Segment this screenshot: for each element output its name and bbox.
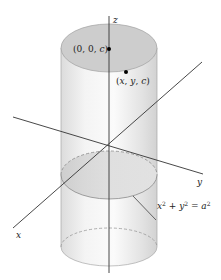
x-axis-label: x bbox=[16, 230, 21, 240]
z-axis-label: z bbox=[112, 15, 118, 25]
equation-label: x2 + y2 = a2 bbox=[157, 200, 211, 211]
y-axis-label: y bbox=[196, 177, 203, 187]
label-0-0-c: (0, 0, c) bbox=[73, 44, 108, 54]
point-x-y-c bbox=[124, 70, 128, 74]
cylinder-diagram: z y x (0, 0, c) (x, y, c) x2 + y2 = a2 bbox=[0, 0, 221, 280]
label-x-y-c: (x, y, c) bbox=[116, 76, 150, 86]
